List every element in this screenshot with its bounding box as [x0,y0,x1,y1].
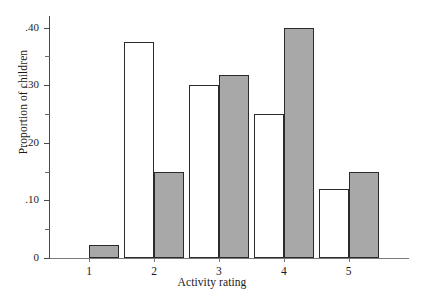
bar-filled-4 [284,28,314,258]
x-tick [219,258,220,262]
y-tick-minor [45,114,50,115]
bar-filled-1 [89,245,119,258]
x-tick-label: 5 [334,265,364,277]
x-tick-label: 2 [139,265,169,277]
bar-open-5 [319,189,349,258]
x-tick [154,258,155,262]
y-tick-minor [45,229,50,230]
y-axis-title: Proportion of children [17,17,29,187]
x-tick-label: 4 [269,265,299,277]
y-tick-major: .20 [44,143,50,144]
x-tick [89,258,90,262]
y-tick-label: .10 [25,193,39,205]
x-axis-title: Activity rating [0,276,424,288]
x-tick-label: 1 [74,265,104,277]
y-tick-major: .10 [44,200,50,201]
bar-filled-2 [154,172,184,258]
x-tick-label: 3 [204,265,234,277]
bar-chart-figure: Proportion of children Activity rating 0… [0,0,424,298]
y-tick-label: .30 [25,78,39,90]
y-tick-major: 0 [44,258,50,259]
bar-open-3 [189,85,219,258]
y-tick-minor [45,172,50,173]
bar-open-4 [254,114,284,258]
y-tick-major: .40 [44,28,50,29]
x-tick [349,258,350,262]
y-tick-label: .20 [25,136,39,148]
y-tick-label: .40 [25,21,39,33]
bar-filled-5 [349,172,379,258]
bar-filled-3 [219,75,249,258]
x-tick [284,258,285,262]
bar-open-2 [124,42,154,258]
y-tick-major: .30 [44,85,50,86]
y-axis-line [49,16,50,259]
x-axis-line [46,258,409,259]
y-tick-minor [45,56,50,57]
plot-area: 0.10.20.30.40 12345 [49,16,409,258]
y-tick-label: 0 [34,251,40,263]
